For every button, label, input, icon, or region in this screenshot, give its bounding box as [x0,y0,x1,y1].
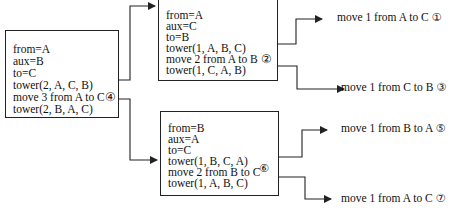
move-label-3: move 1 from C to B ③ [341,81,446,94]
lower-call-box: from=B aux=A to=C tower(1, B, C, A) move… [160,111,279,196]
box-line: to=C [13,67,36,80]
move-text: move 1 from A to C [337,11,429,23]
box-line: aux=B [13,55,44,68]
move-label-1: move 1 from A to C ① [337,11,441,24]
step-marker: ① [432,11,442,24]
step-marker: ⑥ [259,162,269,175]
move-text: move 1 from A to C [341,192,433,204]
move-text: move 1 from C to B [341,81,433,93]
box-line: move 3 from A to C④ [13,91,116,104]
move-text: move 1 from B to A [341,122,433,134]
move-label-7: move 1 from A to C ⑦ [341,192,445,205]
step-marker: ⑤ [436,122,446,135]
box-line: from=A [13,43,50,56]
move-label-5: move 1 from B to A ⑤ [341,122,445,135]
root-call-box: from=A aux=B to=C tower(2, A, C, B) move… [5,30,119,118]
step-marker: ⑦ [436,192,446,205]
box-line: tower(1, A, B, C) [168,177,248,190]
box-line: tower(1, C, A, B) [166,64,246,77]
box-line: tower(2, B, A, C) [13,103,93,116]
upper-call-box: from=A aux=C to=B tower(1, A, B, C) move… [158,0,278,81]
box-line: tower(2, A, C, B) [13,79,93,92]
step-marker: ③ [436,81,446,94]
